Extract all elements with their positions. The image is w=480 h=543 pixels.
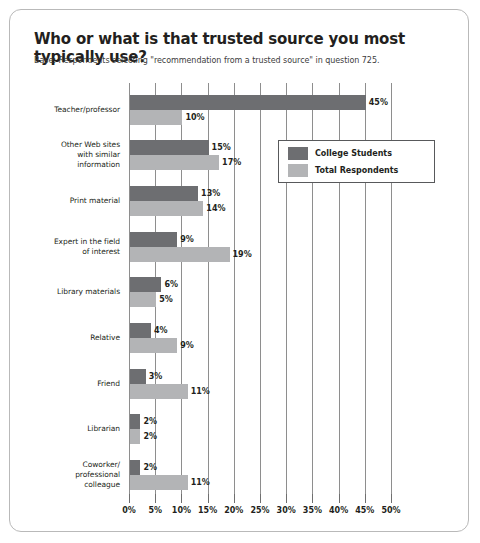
legend-label: College Students bbox=[315, 147, 392, 160]
bar-value-label: 2% bbox=[143, 414, 157, 429]
bar-value-label: 17% bbox=[222, 155, 241, 170]
bar-value-label: 10% bbox=[185, 110, 204, 125]
chart-bar bbox=[130, 414, 140, 429]
category-label: Teacher/professor bbox=[12, 105, 120, 115]
chart-bar bbox=[130, 186, 198, 201]
bar-value-label: 5% bbox=[159, 292, 173, 307]
category-label: Print material bbox=[12, 196, 120, 206]
chart-bar bbox=[130, 95, 366, 110]
category-label: Friend bbox=[12, 379, 120, 389]
bar-value-label: 2% bbox=[143, 460, 157, 475]
bar-value-label: 11% bbox=[191, 384, 210, 399]
category-label-line: Relative bbox=[90, 333, 120, 342]
category-label-line: colleague bbox=[84, 480, 120, 489]
category-label-line: with similar bbox=[77, 150, 120, 159]
axis-tick bbox=[181, 494, 182, 503]
category-label-line: Friend bbox=[97, 379, 120, 388]
category-label: Library materials bbox=[12, 287, 120, 297]
chart-legend: College Students Total Respondents bbox=[278, 140, 435, 183]
category-label-line: professional bbox=[75, 470, 120, 479]
chart-bar bbox=[130, 429, 140, 444]
chart-bar bbox=[130, 277, 161, 292]
category-label-line: Coworker/ bbox=[83, 460, 120, 469]
chart-bar bbox=[130, 323, 151, 338]
chart-bar bbox=[130, 155, 219, 170]
x-axis-tick-label: 50% bbox=[371, 506, 411, 515]
category-label-line: Library materials bbox=[57, 287, 120, 296]
category-label-line: Teacher/professor bbox=[54, 105, 120, 114]
chart-bar bbox=[130, 201, 203, 216]
bar-value-label: 19% bbox=[233, 247, 252, 262]
bar-value-label: 2% bbox=[143, 429, 157, 444]
category-label: Librarian bbox=[12, 424, 120, 434]
axis-tick bbox=[234, 494, 235, 503]
chart-bar bbox=[130, 338, 177, 353]
category-label: Expert in the fieldof interest bbox=[12, 237, 120, 257]
legend-label: Total Respondents bbox=[315, 164, 398, 177]
chart-bar bbox=[130, 140, 209, 155]
bar-value-label: 11% bbox=[191, 475, 210, 490]
chart-category-group: Expert in the fieldof interest9%19% bbox=[129, 220, 391, 266]
axis-tick bbox=[260, 494, 261, 503]
category-label: Relative bbox=[12, 333, 120, 343]
category-label: Coworker/professionalcolleague bbox=[12, 460, 120, 490]
bar-value-label: 9% bbox=[180, 232, 194, 247]
category-label-line: of interest bbox=[82, 247, 120, 256]
chart-category-group: Librarian2%2% bbox=[129, 403, 391, 449]
category-label-line: Other Web sites bbox=[61, 140, 120, 149]
category-label-line: information bbox=[77, 160, 120, 169]
chart-bar bbox=[130, 232, 177, 247]
bar-value-label: 14% bbox=[206, 201, 225, 216]
axis-tick bbox=[312, 494, 313, 503]
chart-category-group: Friend3%11% bbox=[129, 357, 391, 403]
chart-bar bbox=[130, 460, 140, 475]
bar-value-label: 3% bbox=[149, 369, 163, 384]
chart-category-group: Library materials6%5% bbox=[129, 266, 391, 312]
axis-tick bbox=[286, 494, 287, 503]
bar-value-label: 13% bbox=[201, 186, 220, 201]
category-label: Other Web siteswith similarinformation bbox=[12, 140, 120, 170]
chart-card: Who or what is that trusted source you m… bbox=[9, 9, 469, 532]
axis-tick bbox=[208, 494, 209, 503]
bar-value-label: 4% bbox=[154, 323, 168, 338]
chart-subtitle: Base: Respondents selecting "recommendat… bbox=[34, 55, 454, 66]
category-label-line: Print material bbox=[70, 196, 120, 205]
bar-value-label: 6% bbox=[164, 277, 178, 292]
chart-bar bbox=[130, 292, 156, 307]
axis-tick bbox=[365, 494, 366, 503]
chart-bar bbox=[130, 110, 182, 125]
chart-bar bbox=[130, 384, 188, 399]
legend-swatch-icon bbox=[288, 147, 308, 160]
axis-tick bbox=[129, 494, 130, 503]
bar-value-label: 45% bbox=[369, 95, 388, 110]
category-label-line: Librarian bbox=[87, 424, 120, 433]
category-label-line: Expert in the field bbox=[54, 237, 120, 246]
chart-category-group: Teacher/professor45%10% bbox=[129, 83, 391, 129]
axis-tick bbox=[339, 494, 340, 503]
bar-value-label: 9% bbox=[180, 338, 194, 353]
axis-tick bbox=[155, 494, 156, 503]
legend-swatch-icon bbox=[288, 164, 308, 177]
chart-category-group: Relative4%9% bbox=[129, 311, 391, 357]
chart-category-group: Coworker/professionalcolleague2%11% bbox=[129, 448, 391, 494]
chart-bar bbox=[130, 475, 188, 490]
chart-bar bbox=[130, 247, 230, 262]
bar-value-label: 15% bbox=[212, 140, 231, 155]
chart-bar bbox=[130, 369, 146, 384]
axis-tick bbox=[391, 494, 392, 503]
